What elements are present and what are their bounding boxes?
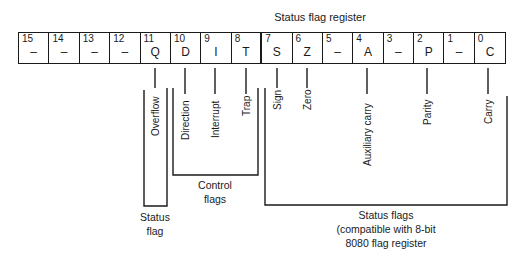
group-label-status-flag: Status flag: [125, 210, 185, 238]
group-label-control-flags: Control flags: [180, 178, 250, 206]
label-auxiliary-carry: Auxiliary carry: [362, 103, 373, 166]
group-label-line: flag: [125, 224, 185, 238]
label-carry: Carry: [483, 100, 494, 124]
group-label-line: Control: [180, 178, 250, 192]
group-label-line: Status: [125, 210, 185, 224]
label-sign: Sign: [272, 90, 283, 110]
group-label-line: (compatible with 8-bit: [316, 222, 456, 236]
group-label-line: Status flags: [316, 208, 456, 222]
label-overflow: Overflow: [150, 97, 161, 136]
label-direction: Direction: [180, 101, 191, 140]
label-zero: Zero: [302, 89, 313, 110]
group-label-line: flags: [180, 192, 250, 206]
label-trap: Trap: [241, 96, 252, 116]
group-label-status-flags: Status flags (compatible with 8-bit 8080…: [316, 208, 456, 250]
label-parity: Parity: [422, 99, 433, 125]
flag-register-diagram: Status flag register 15– 14– 13– 12– 11Q…: [0, 0, 522, 259]
label-interrupt: Interrupt: [210, 101, 221, 138]
group-label-line: 8080 flag register: [316, 236, 456, 250]
